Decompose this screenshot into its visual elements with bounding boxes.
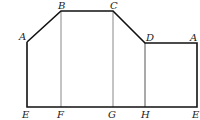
label-E-left: E [21,109,30,120]
label-E-right: E [191,109,200,120]
label-A-left: A [18,31,26,42]
label-G: G [108,109,116,120]
label-A-right: A [189,32,197,43]
label-H: H [140,109,150,120]
geometric-net-diagram: A B C D A E F G H E [0,0,200,120]
label-B: B [57,0,65,11]
label-D: D [145,32,154,43]
label-C: C [110,0,118,11]
net-outline [27,11,197,107]
label-F: F [56,109,65,120]
